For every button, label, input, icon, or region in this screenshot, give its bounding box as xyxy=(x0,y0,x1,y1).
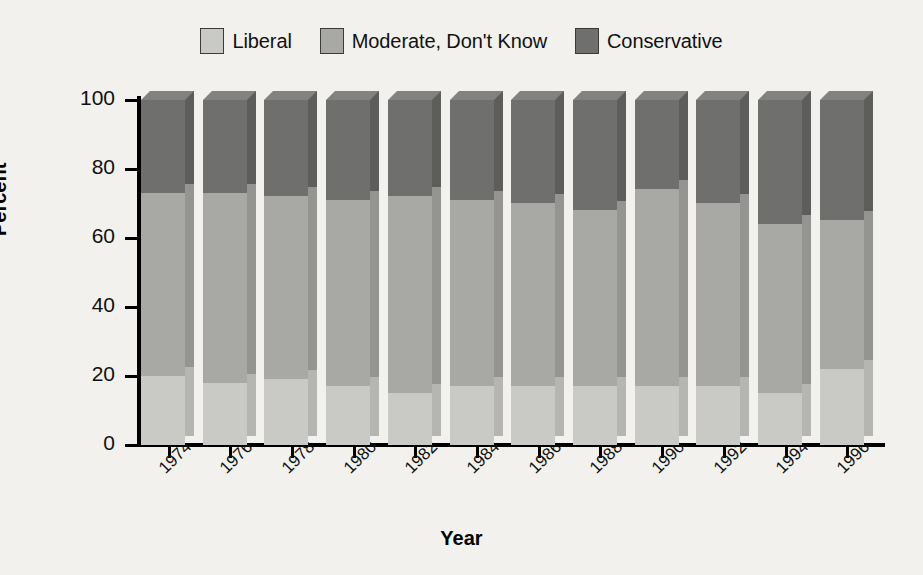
bar-1986-conservative-side xyxy=(555,91,564,195)
bar-1996-liberal-bevel xyxy=(864,360,873,369)
bar-1984-conservative-side xyxy=(494,91,503,191)
bar-segment-1986-conservative[interactable] xyxy=(511,100,555,204)
bar-segment-1988-liberal[interactable] xyxy=(573,386,617,445)
y-tick-label-60: 60 xyxy=(55,224,115,248)
y-tick-60 xyxy=(125,237,137,240)
bar-1992-top-face xyxy=(696,91,749,100)
bar-1994-moderate-side xyxy=(802,215,811,384)
bar-1996-conservative-side xyxy=(864,91,873,212)
y-axis-label: Percent xyxy=(0,163,11,236)
bar-1974-liberal-bevel xyxy=(185,367,194,376)
bar-segment-1992-conservative[interactable] xyxy=(696,100,740,204)
bar-segment-1986-moderate[interactable] xyxy=(511,203,555,386)
bar-1988-liberal-bevel xyxy=(617,377,626,386)
y-tick-40 xyxy=(125,306,137,309)
bar-1996-top-face xyxy=(820,91,873,100)
bar-segment-1980-moderate[interactable] xyxy=(326,200,370,387)
bar-segment-1980-liberal[interactable] xyxy=(326,386,370,445)
bar-1986-moderate-bevel xyxy=(555,194,564,203)
bar-segment-1974-conservative[interactable] xyxy=(141,100,185,193)
bar-segment-1986-liberal[interactable] xyxy=(511,386,555,445)
bar-1976-liberal-side xyxy=(247,374,256,436)
chart-container: Liberal Moderate, Don't Know Conservativ… xyxy=(0,0,923,575)
bar-1992-moderate-bevel xyxy=(740,194,749,203)
bar-segment-1990-moderate[interactable] xyxy=(635,189,679,386)
bar-segment-1996-liberal[interactable] xyxy=(820,369,864,445)
bar-segment-1990-conservative[interactable] xyxy=(635,100,679,190)
bar-segment-1996-moderate[interactable] xyxy=(820,220,864,369)
bar-segment-1980-conservative[interactable] xyxy=(326,100,370,200)
bar-segment-1976-moderate[interactable] xyxy=(203,193,247,383)
bar-1990-moderate-bevel xyxy=(679,180,688,189)
bar-segment-1990-liberal[interactable] xyxy=(635,386,679,445)
bar-1980-conservative-side xyxy=(370,91,379,191)
bar-1974-moderate-side xyxy=(185,184,194,367)
bar-segment-1982-liberal[interactable] xyxy=(388,393,432,445)
bar-1982-moderate-side xyxy=(432,187,441,384)
bar-1978-moderate-side xyxy=(308,187,317,370)
bar-segment-1982-moderate[interactable] xyxy=(388,196,432,393)
bar-segment-1992-liberal[interactable] xyxy=(696,386,740,445)
bar-1974-moderate-bevel xyxy=(185,184,194,193)
bar-segment-1992-moderate[interactable] xyxy=(696,203,740,386)
bar-1982-conservative-side xyxy=(432,91,441,188)
legend-item-conservative: Conservative xyxy=(575,28,723,54)
bar-1986-top-face xyxy=(511,91,564,100)
bar-segment-1982-conservative[interactable] xyxy=(388,100,432,197)
bar-segment-1984-liberal[interactable] xyxy=(450,386,494,445)
bar-1994-top-face xyxy=(758,91,811,100)
bar-1978-moderate-bevel xyxy=(308,187,317,196)
bar-1988-moderate-side xyxy=(617,201,626,377)
bar-segment-1974-liberal[interactable] xyxy=(141,376,185,445)
bar-1984-moderate-side xyxy=(494,191,503,378)
bar-1984-liberal-bevel xyxy=(494,377,503,386)
bar-1978-liberal-side xyxy=(308,370,317,436)
bar-1996-moderate-side xyxy=(864,211,873,360)
bar-1976-moderate-side xyxy=(247,184,256,374)
bar-segment-1988-conservative[interactable] xyxy=(573,100,617,211)
bar-1984-top-face xyxy=(450,91,503,100)
bar-segment-1978-conservative[interactable] xyxy=(264,100,308,197)
legend-item-moderate: Moderate, Don't Know xyxy=(320,28,547,54)
bar-segment-1984-conservative[interactable] xyxy=(450,100,494,200)
bar-1988-moderate-bevel xyxy=(617,201,626,210)
bar-1994-conservative-side xyxy=(802,91,811,215)
bar-1980-moderate-bevel xyxy=(370,191,379,200)
bar-1990-top-face xyxy=(635,91,688,100)
bar-segment-1994-liberal[interactable] xyxy=(758,393,802,445)
bar-segment-1974-moderate[interactable] xyxy=(141,193,185,376)
bar-1982-liberal-bevel xyxy=(432,384,441,393)
bar-1988-top-face xyxy=(573,91,626,100)
bar-segment-1976-conservative[interactable] xyxy=(203,100,247,193)
legend-item-liberal: Liberal xyxy=(200,28,291,54)
bar-1988-conservative-side xyxy=(617,91,626,202)
bar-1974-conservative-side xyxy=(185,91,194,184)
bar-1976-top-face xyxy=(203,91,256,100)
bar-1976-conservative-side xyxy=(247,91,256,184)
bar-1978-liberal-bevel xyxy=(308,370,317,379)
bar-segment-1994-conservative[interactable] xyxy=(758,100,802,224)
y-tick-label-80: 80 xyxy=(55,155,115,179)
y-tick-20 xyxy=(125,375,137,378)
bar-segment-1976-liberal[interactable] xyxy=(203,383,247,445)
bar-1986-moderate-side xyxy=(555,194,564,377)
bar-segment-1994-moderate[interactable] xyxy=(758,224,802,393)
bar-segment-1996-conservative[interactable] xyxy=(820,100,864,221)
bar-1980-liberal-bevel xyxy=(370,377,379,386)
legend-swatch-liberal xyxy=(200,28,224,54)
bar-segment-1978-moderate[interactable] xyxy=(264,196,308,379)
legend-label-moderate: Moderate, Don't Know xyxy=(352,30,547,53)
y-tick-80 xyxy=(125,168,137,171)
y-tick-label-0: 0 xyxy=(55,431,115,455)
bar-segment-1984-moderate[interactable] xyxy=(450,200,494,387)
chart-legend: Liberal Moderate, Don't Know Conservativ… xyxy=(0,28,923,54)
bar-segment-1988-moderate[interactable] xyxy=(573,210,617,386)
bar-1990-conservative-side xyxy=(679,91,688,181)
bar-1984-moderate-bevel xyxy=(494,191,503,200)
bar-segment-1978-liberal[interactable] xyxy=(264,379,308,445)
bar-1978-top-face xyxy=(264,91,317,100)
bar-1996-moderate-bevel xyxy=(864,211,873,220)
bar-1974-top-face xyxy=(141,91,194,100)
legend-label-conservative: Conservative xyxy=(607,30,723,53)
bar-1974-liberal-side xyxy=(185,367,194,436)
